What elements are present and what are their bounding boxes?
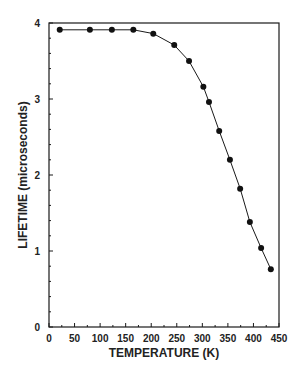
y-tick-label: 1 bbox=[34, 246, 40, 257]
data-point-marker bbox=[150, 31, 156, 37]
x-tick-label: 0 bbox=[46, 333, 52, 344]
data-point-marker bbox=[130, 27, 136, 33]
data-point-marker bbox=[268, 266, 274, 272]
x-tick-label: 100 bbox=[92, 333, 109, 344]
data-point-marker bbox=[216, 128, 222, 134]
data-point-marker bbox=[206, 99, 212, 105]
y-axis-ticks: 01234 bbox=[34, 18, 53, 333]
data-point-marker bbox=[258, 245, 264, 251]
data-point-marker bbox=[186, 58, 192, 64]
y-tick-label: 2 bbox=[34, 170, 40, 181]
y-axis-title: LIFETIME (microseconds) bbox=[16, 101, 30, 248]
x-tick-label: 450 bbox=[271, 333, 288, 344]
series-line bbox=[60, 30, 271, 269]
data-series bbox=[57, 27, 274, 272]
x-axis-ticks: 050100150200250300350400450 bbox=[46, 323, 288, 344]
data-point-marker bbox=[87, 27, 93, 33]
y-tick-label: 4 bbox=[34, 18, 40, 29]
data-point-marker bbox=[247, 219, 253, 225]
x-tick-label: 350 bbox=[220, 333, 237, 344]
y-tick-label: 3 bbox=[34, 94, 40, 105]
x-tick-label: 400 bbox=[245, 333, 262, 344]
plot-frame bbox=[49, 23, 279, 327]
x-tick-label: 300 bbox=[194, 333, 211, 344]
x-tick-label: 250 bbox=[168, 333, 185, 344]
x-tick-label: 50 bbox=[69, 333, 81, 344]
data-point-marker bbox=[171, 42, 177, 48]
data-point-marker bbox=[237, 186, 243, 192]
lifetime-vs-temperature-chart: 050100150200250300350400450 01234 TEMPER… bbox=[0, 0, 302, 371]
data-point-marker bbox=[57, 27, 63, 33]
data-point-marker bbox=[227, 157, 233, 163]
x-tick-label: 150 bbox=[117, 333, 134, 344]
x-tick-label: 200 bbox=[143, 333, 160, 344]
data-point-marker bbox=[109, 27, 115, 33]
x-axis-title: TEMPERATURE (K) bbox=[109, 346, 219, 360]
y-tick-label: 0 bbox=[34, 322, 40, 333]
data-point-marker bbox=[200, 84, 206, 90]
